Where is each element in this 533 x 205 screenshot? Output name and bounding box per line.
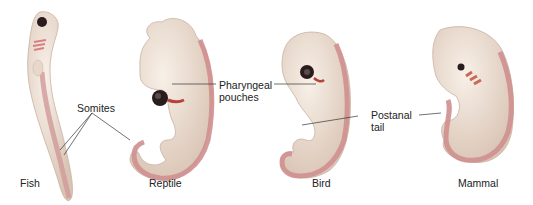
pharyngeal-pouches-label-line1: Pharyngeal (219, 79, 272, 91)
mammal-caption: Mammal (458, 177, 498, 189)
somites-label: Somites (77, 102, 115, 114)
reptile-embryo (130, 18, 212, 180)
pharyngeal-pouches-label-line2: pouches (219, 91, 259, 103)
mammal-embryo (433, 27, 514, 163)
bird-caption: Bird (312, 177, 331, 189)
reptile-caption: Reptile (149, 177, 182, 189)
postanal-tail-label-line1: Postanal (371, 109, 412, 121)
fish-caption: Fish (20, 177, 40, 189)
fish-embryo (28, 12, 73, 201)
bird-embryo (281, 32, 351, 178)
embryo-comparison-figure: Somites Pharyngeal pouches Postanal tail… (0, 0, 533, 205)
postanal-tail-label-line2: tail (371, 121, 384, 133)
